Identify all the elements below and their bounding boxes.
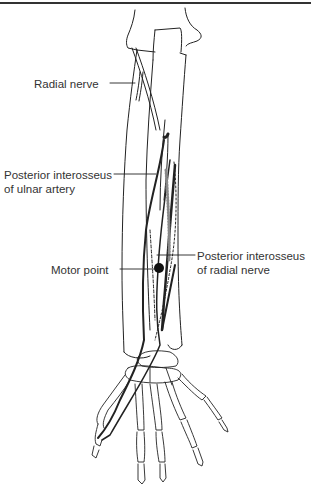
label-posterior-interosseus-ulnar-line1: Posterior interosseus bbox=[4, 168, 112, 182]
label-posterior-interosseus-radial-line1: Posterior interosseus bbox=[197, 249, 305, 263]
label-posterior-interosseus-ulnar-line2: of ulnar artery bbox=[4, 182, 75, 196]
forearm-illustration bbox=[0, 0, 311, 496]
motor-point-marker bbox=[154, 263, 164, 273]
label-radial-nerve: Radial nerve bbox=[34, 77, 99, 91]
label-motor-point: Motor point bbox=[51, 263, 109, 277]
label-posterior-interosseus-radial-line2: of radial nerve bbox=[197, 263, 270, 277]
